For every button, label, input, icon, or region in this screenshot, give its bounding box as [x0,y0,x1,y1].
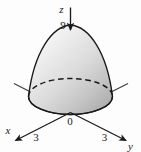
paraboloid-surface [29,25,113,115]
paraboloid-diagram: z 9 0 3 3 x y [0,0,141,152]
paraboloid-figure: z 9 0 3 3 x y [0,0,141,152]
x-tick-label: 3 [33,131,39,143]
x-axis [16,113,71,141]
origin-label: 0 [67,115,73,127]
y-axis [71,113,127,141]
y-tick-label: 3 [102,131,108,143]
y-axis-label: y [127,140,133,152]
apex-value-label: 9 [60,19,66,31]
x-axis-label: x [5,124,11,136]
z-axis-label: z [58,3,64,15]
